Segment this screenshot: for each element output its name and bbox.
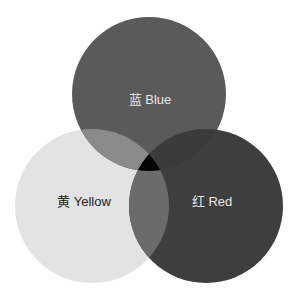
- venn-diagram: 蓝 Blue 黄 Yellow 红 Red: [0, 0, 299, 294]
- label-blue: 蓝 Blue: [129, 92, 172, 107]
- label-yellow: 黄 Yellow: [57, 194, 111, 209]
- label-red: 红 Red: [192, 194, 232, 209]
